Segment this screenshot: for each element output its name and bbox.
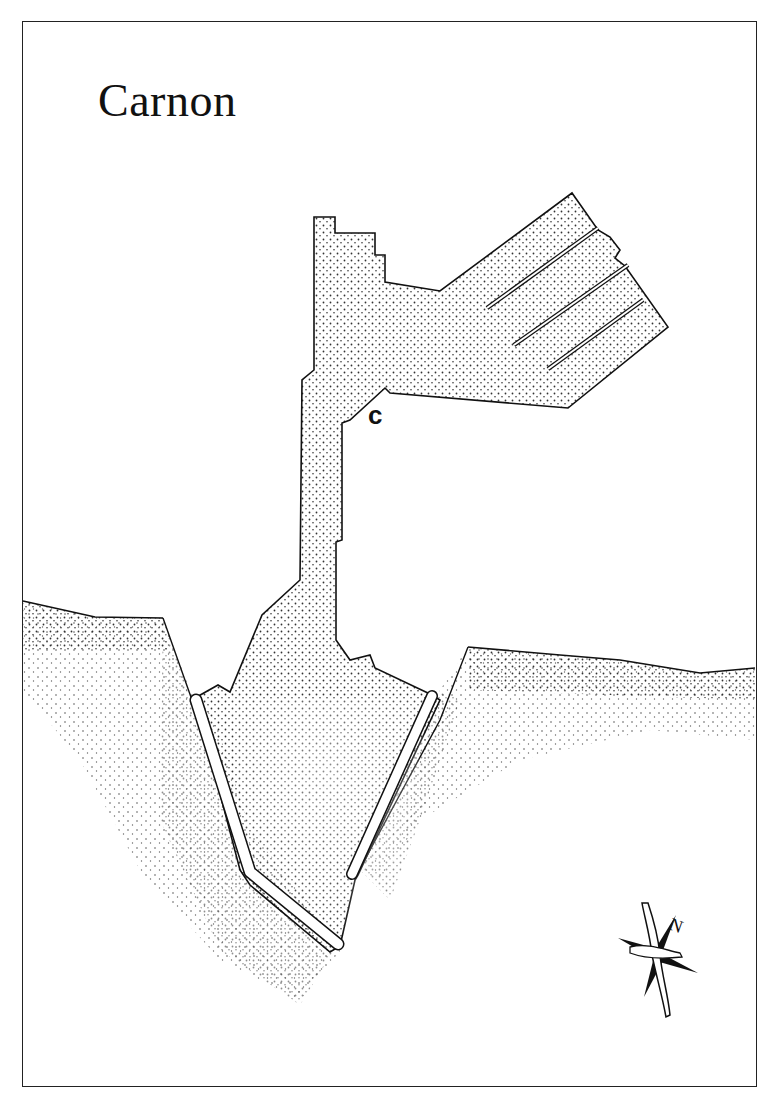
harbour-map: N: [0, 0, 772, 1114]
compass-rose-icon: N: [618, 903, 698, 1017]
map-title: Carnon: [98, 78, 236, 124]
map-label-c: c: [368, 402, 382, 428]
harbour-basin: [195, 193, 668, 952]
north-label: N: [667, 914, 686, 937]
